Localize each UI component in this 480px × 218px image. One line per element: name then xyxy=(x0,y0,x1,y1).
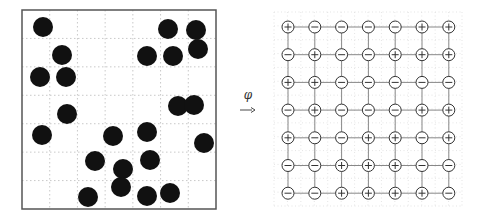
particle xyxy=(184,95,204,115)
particle xyxy=(163,46,183,66)
spin-down-node xyxy=(389,76,401,88)
spin-up-node xyxy=(282,21,294,33)
spin-down-node xyxy=(336,132,348,144)
spin-down-node xyxy=(362,76,374,88)
spin-up-node xyxy=(362,132,374,144)
particle xyxy=(57,104,77,124)
spin-up-node xyxy=(416,49,428,61)
spin-down-node xyxy=(336,76,348,88)
spin-down-node xyxy=(443,187,455,199)
spin-down-node xyxy=(336,21,348,33)
spin-down-node xyxy=(309,160,321,172)
particle xyxy=(140,150,160,170)
particle xyxy=(52,45,72,65)
spin-up-node xyxy=(443,132,455,144)
spin-up-node xyxy=(362,160,374,172)
particle xyxy=(160,183,180,203)
spin-down-node xyxy=(416,76,428,88)
particle xyxy=(137,122,157,142)
particle-configuration-panel xyxy=(22,10,216,209)
spin-lattice-panel xyxy=(274,12,462,206)
particle xyxy=(85,151,105,171)
spin-down-node xyxy=(416,160,428,172)
spin-up-node xyxy=(389,132,401,144)
spin-up-node xyxy=(309,104,321,116)
spin-down-node xyxy=(362,21,374,33)
spin-down-node xyxy=(389,21,401,33)
spin-up-node xyxy=(416,104,428,116)
spin-up-node xyxy=(389,49,401,61)
spin-up-node xyxy=(336,160,348,172)
spin-up-node xyxy=(443,21,455,33)
spin-down-node xyxy=(336,49,348,61)
spin-up-node xyxy=(309,49,321,61)
spin-down-node xyxy=(282,104,294,116)
particle xyxy=(137,46,157,66)
spin-down-node xyxy=(336,104,348,116)
spin-up-node xyxy=(282,132,294,144)
spin-down-node xyxy=(309,187,321,199)
spin-down-node xyxy=(416,132,428,144)
spin-down-node xyxy=(309,132,321,144)
spin-up-node xyxy=(336,187,348,199)
spin-up-node xyxy=(389,160,401,172)
spin-up-node xyxy=(416,21,428,33)
spin-up-node xyxy=(443,104,455,116)
particle xyxy=(186,20,206,40)
spin-down-node xyxy=(362,49,374,61)
particle xyxy=(103,126,123,146)
particle xyxy=(111,177,131,197)
spin-down-node xyxy=(362,104,374,116)
spin-up-node xyxy=(389,187,401,199)
spin-up-node xyxy=(309,76,321,88)
diagram-canvas xyxy=(0,0,480,218)
mapping-label-phi: φ xyxy=(239,88,257,102)
spin-down-node xyxy=(443,76,455,88)
particle xyxy=(137,186,157,206)
particle xyxy=(113,159,133,179)
particle xyxy=(78,187,98,207)
particle xyxy=(158,19,178,39)
spin-down-node xyxy=(389,104,401,116)
spin-up-node xyxy=(443,49,455,61)
mapping-arrow-icon xyxy=(240,108,255,113)
spin-up-node xyxy=(282,76,294,88)
spin-down-node xyxy=(282,160,294,172)
particle xyxy=(194,133,214,153)
particle xyxy=(32,125,52,145)
spin-down-node xyxy=(443,160,455,172)
particle xyxy=(188,39,208,59)
spin-up-node xyxy=(362,187,374,199)
particle xyxy=(33,17,53,37)
particle xyxy=(30,67,50,87)
spin-down-node xyxy=(282,187,294,199)
spin-down-node xyxy=(282,49,294,61)
spin-up-node xyxy=(416,187,428,199)
spin-down-node xyxy=(309,21,321,33)
particle xyxy=(56,67,76,87)
